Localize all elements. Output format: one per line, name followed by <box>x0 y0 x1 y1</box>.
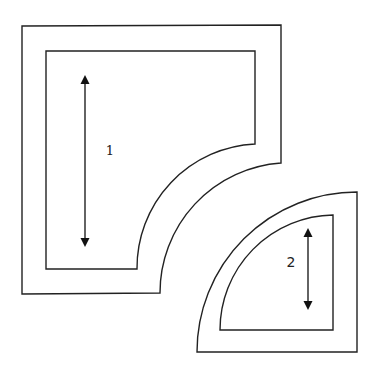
piece-1-grainline-arrow-icon <box>81 75 90 247</box>
diagram-canvas <box>0 0 380 371</box>
piece-2-label: 2 <box>287 255 296 269</box>
piece-1-label: 1 <box>106 144 114 158</box>
arrow-up-head-icon <box>304 228 313 237</box>
piece-1 <box>22 25 281 294</box>
piece-2 <box>197 192 357 352</box>
arrow-down-head-icon <box>304 301 313 310</box>
piece-2-grainline-arrow-icon <box>304 228 313 310</box>
piece-1-sewing-line <box>46 51 255 269</box>
piece-2-sewing-line <box>220 215 333 330</box>
piece-1-cutting-line <box>22 25 281 294</box>
arrow-down-head-icon <box>81 238 90 247</box>
arrow-up-head-icon <box>81 75 90 84</box>
quilt-template-diagram: 1 2 <box>0 0 380 371</box>
